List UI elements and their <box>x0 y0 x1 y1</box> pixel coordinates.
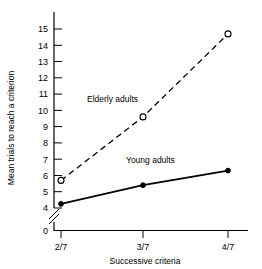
data-point-young-adults <box>226 168 231 173</box>
y-tick-label: 9 <box>43 122 48 132</box>
y-tick-label: 15 <box>38 24 48 34</box>
y-axis-title: Mean trials to reach a criterion <box>6 71 16 186</box>
x-tick-label: 2/7 <box>55 242 68 252</box>
y-axis-break-icon <box>49 209 59 224</box>
x-tick-label: 3/7 <box>137 242 150 252</box>
y-tick-label: 7 <box>43 155 48 165</box>
series-label-elderly-adults: Elderly adults <box>87 94 138 104</box>
data-point-young-adults <box>141 183 146 188</box>
y-tick-label: 11 <box>39 89 48 99</box>
data-point-young-adults <box>59 202 64 207</box>
x-tick-group: 2/7 3/7 4/7 <box>55 231 235 253</box>
data-point-elderly-adults <box>225 31 231 37</box>
x-tick-label: 4/7 <box>222 242 235 252</box>
chart-container: Mean trials to reach a criterion 15 14 1… <box>0 0 262 269</box>
y-tick-label: 5 <box>43 187 48 197</box>
y-tick-label: 6 <box>43 171 48 181</box>
y-tick-label: 10 <box>38 106 48 116</box>
y-tick-label: 4 <box>43 203 48 213</box>
x-axis-title: Successive criteria <box>110 256 181 266</box>
data-point-elderly-adults <box>140 114 146 120</box>
data-point-elderly-adults <box>58 177 64 183</box>
series-label-young-adults: Young adults <box>126 155 175 165</box>
y-tick-label: 14 <box>38 41 48 51</box>
y-tick-label: 8 <box>43 138 48 148</box>
y-zero-label: 0 <box>43 226 48 236</box>
y-tick-label: 12 <box>38 73 48 83</box>
y-tick-label: 13 <box>38 57 48 67</box>
line-chart: Mean trials to reach a criterion 15 14 1… <box>0 0 262 269</box>
